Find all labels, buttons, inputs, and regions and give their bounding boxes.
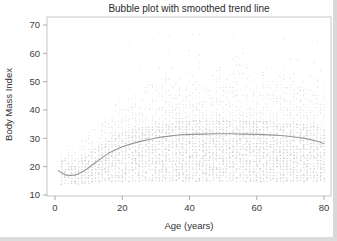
bubble-point [209, 140, 210, 141]
bubble-point [293, 129, 294, 130]
bubble-point [266, 141, 267, 142]
bubble-point [168, 149, 170, 151]
bubble-point [235, 120, 236, 121]
bubble-point [172, 178, 173, 179]
bubble-point [246, 160, 248, 162]
bubble-point [185, 72, 186, 73]
bubble-point [323, 98, 324, 99]
bubble-point [189, 141, 191, 143]
bubble-point [300, 117, 301, 118]
bubble-point [196, 155, 198, 157]
bubble-point [129, 118, 130, 119]
bubble-point [145, 124, 146, 125]
bubble-point [316, 177, 317, 178]
bubble-point [239, 138, 241, 140]
bubble-point [118, 154, 120, 156]
bubble-point [296, 158, 297, 159]
bubble-point [172, 166, 173, 167]
bubble-point [219, 115, 220, 116]
bubble-point [178, 107, 179, 108]
bubble-point [119, 110, 120, 111]
bubble-point [273, 126, 274, 127]
bubble-point [125, 163, 127, 165]
bubble-point [152, 158, 154, 160]
bubble-point [236, 152, 238, 154]
bubble-point [209, 152, 211, 154]
bubble-point [290, 112, 291, 113]
bubble-point [135, 163, 137, 165]
bubble-point [129, 116, 130, 117]
bubble-point [226, 132, 227, 133]
bubble-point [212, 121, 213, 122]
bubble-point [300, 86, 301, 87]
bubble-point [223, 155, 224, 156]
bubble-point [192, 155, 193, 156]
bubble-point [159, 107, 160, 108]
bubble-point [165, 90, 166, 91]
bubble-point [253, 168, 254, 169]
bubble-point [239, 112, 240, 113]
bubble-point [279, 123, 280, 124]
bubble-point [125, 155, 126, 156]
bubble-point [239, 78, 240, 79]
bubble-point [242, 146, 243, 147]
bubble-point [108, 169, 109, 170]
bubble-point [314, 98, 315, 99]
bubble-point [175, 141, 176, 142]
bubble-point [182, 160, 184, 162]
bubble-point [306, 130, 308, 132]
bubble-point [148, 141, 150, 143]
bubble-point [206, 118, 207, 119]
bubble-point [317, 78, 318, 79]
bubble-point [283, 75, 284, 76]
bubble-point [314, 175, 316, 177]
bubble-point [293, 134, 295, 136]
bubble-point [198, 179, 200, 181]
bubble-point [152, 149, 154, 151]
bubble-point [222, 138, 224, 140]
bubble-point [279, 172, 281, 174]
bubble-point [216, 81, 217, 82]
bubble-point [118, 177, 120, 179]
bubble-point [283, 146, 284, 147]
bubble-point [273, 175, 274, 176]
bubble-point [286, 138, 287, 139]
bubble-point [236, 129, 238, 131]
bubble-point [212, 152, 214, 154]
bubble-point [155, 158, 156, 159]
bubble-point [253, 121, 255, 123]
bubble-point [155, 141, 156, 142]
bubble-point [239, 126, 240, 127]
bubble-point [242, 180, 243, 181]
bubble-point [169, 167, 170, 168]
bubble-point [236, 140, 238, 142]
bubble-point [159, 92, 160, 93]
bubble-point [105, 121, 106, 122]
bubble-point [226, 163, 228, 165]
bubble-point [172, 160, 174, 162]
bubble-point [229, 166, 231, 168]
bubble-point [289, 165, 290, 166]
bubble-point [300, 109, 301, 110]
bubble-point [280, 166, 282, 168]
bubble-point [118, 149, 119, 150]
bubble-point [219, 169, 221, 171]
bubble-point [182, 169, 184, 171]
bubble-point [119, 163, 120, 164]
bubble-point [307, 160, 308, 161]
bubble-point [169, 95, 170, 96]
bubble-point [105, 171, 107, 173]
bubble-point [213, 134, 214, 135]
bubble-point [219, 123, 220, 124]
bubble-point [235, 171, 236, 172]
bubble-point [229, 152, 231, 154]
bubble-point [299, 135, 301, 137]
bubble-point [196, 160, 197, 161]
bubble-point [316, 172, 317, 173]
bubble-point [165, 118, 166, 119]
bubble-point [179, 161, 180, 162]
bubble-point [175, 95, 176, 96]
bubble-point [199, 110, 200, 111]
bubble-point [226, 165, 228, 167]
bubble-point [232, 104, 233, 105]
